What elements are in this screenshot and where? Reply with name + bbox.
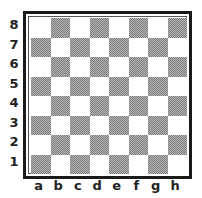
square-h1[interactable]	[168, 155, 188, 175]
file-label-g: g	[146, 178, 166, 194]
square-d3[interactable]	[90, 116, 110, 136]
square-g2[interactable]	[148, 135, 168, 155]
square-c4[interactable]	[70, 96, 90, 116]
square-d2[interactable]	[90, 135, 110, 155]
square-c6[interactable]	[70, 57, 90, 77]
square-e8[interactable]	[109, 18, 129, 38]
square-f7[interactable]	[129, 38, 149, 58]
square-g7[interactable]	[148, 38, 168, 58]
square-e4[interactable]	[109, 96, 129, 116]
square-b6[interactable]	[51, 57, 71, 77]
square-e6[interactable]	[109, 57, 129, 77]
square-a6[interactable]	[31, 57, 51, 77]
rank-label-4: 4	[8, 93, 20, 113]
square-d5[interactable]	[90, 77, 110, 97]
square-b3[interactable]	[51, 116, 71, 136]
file-label-b: b	[49, 178, 69, 194]
square-e1[interactable]	[109, 155, 129, 175]
square-b8[interactable]	[51, 18, 71, 38]
square-a5[interactable]	[31, 77, 51, 97]
square-h6[interactable]	[168, 57, 188, 77]
square-a1[interactable]	[31, 155, 51, 175]
chessboard	[31, 18, 187, 174]
square-a8[interactable]	[31, 18, 51, 38]
file-label-c: c	[68, 178, 88, 194]
square-f2[interactable]	[129, 135, 149, 155]
square-h2[interactable]	[168, 135, 188, 155]
square-f6[interactable]	[129, 57, 149, 77]
square-g6[interactable]	[148, 57, 168, 77]
square-g4[interactable]	[148, 96, 168, 116]
square-b7[interactable]	[51, 38, 71, 58]
square-h4[interactable]	[168, 96, 188, 116]
rank-label-3: 3	[8, 113, 20, 133]
square-g5[interactable]	[148, 77, 168, 97]
square-b5[interactable]	[51, 77, 71, 97]
square-g1[interactable]	[148, 155, 168, 175]
square-b2[interactable]	[51, 135, 71, 155]
square-e5[interactable]	[109, 77, 129, 97]
square-d8[interactable]	[90, 18, 110, 38]
square-e7[interactable]	[109, 38, 129, 58]
square-d1[interactable]	[90, 155, 110, 175]
rank-label-5: 5	[8, 74, 20, 94]
square-e2[interactable]	[109, 135, 129, 155]
square-d6[interactable]	[90, 57, 110, 77]
square-c7[interactable]	[70, 38, 90, 58]
square-a4[interactable]	[31, 96, 51, 116]
square-g3[interactable]	[148, 116, 168, 136]
square-c3[interactable]	[70, 116, 90, 136]
file-label-h: h	[166, 178, 186, 194]
square-b4[interactable]	[51, 96, 71, 116]
square-f3[interactable]	[129, 116, 149, 136]
file-label-d: d	[88, 178, 108, 194]
square-d4[interactable]	[90, 96, 110, 116]
square-h7[interactable]	[168, 38, 188, 58]
square-d7[interactable]	[90, 38, 110, 58]
square-a3[interactable]	[31, 116, 51, 136]
board-inner-frame	[28, 16, 187, 174]
square-f8[interactable]	[129, 18, 149, 38]
board-outer-frame	[23, 11, 192, 179]
square-b1[interactable]	[51, 155, 71, 175]
square-h8[interactable]	[168, 18, 188, 38]
square-c2[interactable]	[70, 135, 90, 155]
file-label-f: f	[127, 178, 147, 194]
rank-label-7: 7	[8, 35, 20, 55]
square-f4[interactable]	[129, 96, 149, 116]
square-c1[interactable]	[70, 155, 90, 175]
rank-label-1: 1	[8, 152, 20, 172]
file-label-a: a	[29, 178, 49, 194]
rank-label-8: 8	[8, 15, 20, 35]
square-f1[interactable]	[129, 155, 149, 175]
file-label-e: e	[107, 178, 127, 194]
square-c5[interactable]	[70, 77, 90, 97]
rank-label-2: 2	[8, 132, 20, 152]
rank-label-6: 6	[8, 54, 20, 74]
square-c8[interactable]	[70, 18, 90, 38]
square-f5[interactable]	[129, 77, 149, 97]
square-g8[interactable]	[148, 18, 168, 38]
square-h3[interactable]	[168, 116, 188, 136]
square-h5[interactable]	[168, 77, 188, 97]
square-a7[interactable]	[31, 38, 51, 58]
square-e3[interactable]	[109, 116, 129, 136]
square-a2[interactable]	[31, 135, 51, 155]
